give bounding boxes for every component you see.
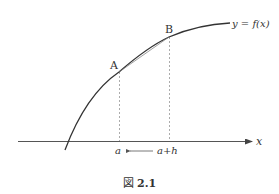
- secant-ab: [119, 37, 169, 72]
- tick-a-label: a: [115, 145, 121, 156]
- curve-f: [65, 23, 230, 150]
- point-b-label: B: [165, 23, 173, 36]
- curve-label: y = f(x): [231, 18, 270, 29]
- figure-caption-number: 2.1: [137, 177, 156, 190]
- tick-a-plus-h-label: a+h: [157, 145, 178, 156]
- figure-caption-prefix: 図: [123, 177, 134, 190]
- point-a-label: A: [109, 59, 119, 72]
- figure-diagram: x A B y = f(x) a a+h 図 2.1: [0, 0, 279, 194]
- x-axis-label: x: [256, 135, 263, 148]
